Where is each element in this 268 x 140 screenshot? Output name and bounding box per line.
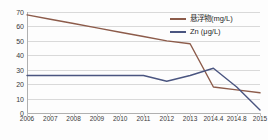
y-axis-tick-label: 40 xyxy=(16,52,24,59)
series-line-zn xyxy=(27,68,260,110)
y-axis-tick-label: 50 xyxy=(16,37,24,44)
legend-label-suspended-solids: 悬浮物(mg/L) xyxy=(190,15,233,23)
y-axis-tick-label: 30 xyxy=(16,66,24,73)
x-axis-tick-label: 2011 xyxy=(137,116,151,123)
x-axis-tick-label: 2006 xyxy=(20,116,34,123)
x-axis-tick-label: 2014.4 xyxy=(203,116,223,123)
x-axis-tick-label: 2013 xyxy=(183,116,197,123)
x-axis-tick-label: 2012 xyxy=(160,116,174,123)
legend-swatch-zn xyxy=(170,31,186,33)
y-axis-tick-label: 60 xyxy=(16,23,24,30)
x-axis-labels: 200620072008200920102011201220132014.420… xyxy=(27,116,260,132)
x-axis-tick-mark xyxy=(144,113,145,116)
x-axis-tick-mark xyxy=(190,113,191,116)
x-axis-tick-mark xyxy=(50,113,51,116)
chart-legend: 悬浮物(mg/L) Zn (μg/L) xyxy=(170,13,233,39)
x-axis-tick-mark xyxy=(167,113,168,116)
legend-swatch-suspended-solids xyxy=(170,18,186,20)
x-axis-tick-mark xyxy=(213,113,214,116)
x-axis-tick-mark xyxy=(260,113,261,116)
x-axis-tick-label: 2008 xyxy=(66,116,80,123)
x-axis-tick-label: 2010 xyxy=(113,116,127,123)
y-axis-tick-label: 10 xyxy=(16,95,24,102)
legend-label-zn: Zn (μg/L) xyxy=(190,28,221,36)
x-axis-tick-label: 2007 xyxy=(43,116,57,123)
y-axis-tick-label: 70 xyxy=(16,9,24,16)
x-axis-tick-mark xyxy=(97,113,98,116)
x-axis-tick-label: 2009 xyxy=(90,116,104,123)
x-axis-tick-label: 2015 xyxy=(253,116,267,123)
x-axis-tick-mark xyxy=(120,113,121,116)
x-axis-tick-mark xyxy=(237,113,238,116)
y-axis-tick-label: 20 xyxy=(16,81,24,88)
x-axis-tick-mark xyxy=(74,113,75,116)
line-chart: 010203040506070 200620072008200920102011… xyxy=(0,0,268,140)
x-axis-tick-label: 2014.8 xyxy=(227,116,247,123)
x-axis-tick-mark xyxy=(27,113,28,116)
legend-item-zn: Zn (μg/L) xyxy=(170,26,233,38)
legend-item-suspended-solids: 悬浮物(mg/L) xyxy=(170,13,233,25)
